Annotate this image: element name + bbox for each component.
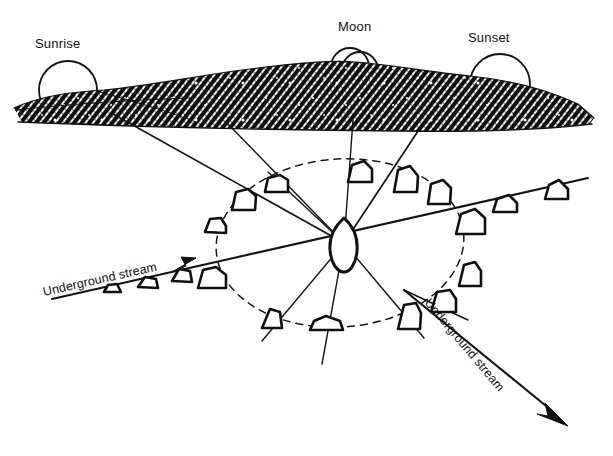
label-sunrise: Sunrise [35,36,80,51]
stone-circle-diagram: Sunrise Moon Sunset Underground stream U… [0,0,613,456]
stone-14 [493,195,517,212]
stone-13 [348,161,372,182]
stone-1 [265,175,288,192]
label-sunset: Sunset [468,30,510,45]
stream-stone-a [104,284,121,292]
stone-10 [456,209,485,234]
stone-6 [310,316,343,330]
stone-2 [232,189,256,210]
hatched-hill [0,50,613,145]
stone-4 [198,267,226,288]
stone-3 [205,218,226,233]
diagram-canvas: Sunrise Moon Sunset Underground stream U… [0,0,613,456]
center-stone [330,218,357,272]
stone-5 [262,309,282,328]
label-moon: Moon [338,19,371,34]
stone-9 [459,262,481,286]
stone-7 [398,303,421,329]
stone-11 [428,180,451,204]
stream-right-arrowhead [537,403,568,426]
ray-sunrise [113,114,344,243]
stone-12 [394,166,418,192]
label-stream-right: Underground stream [422,296,508,394]
